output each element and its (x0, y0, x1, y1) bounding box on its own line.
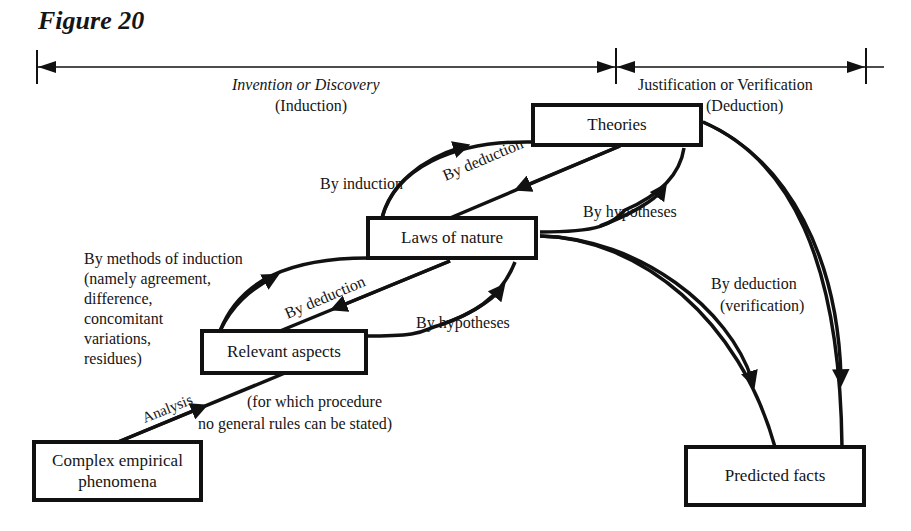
arrow-left-icon (38, 61, 56, 73)
label-methods-of-induction: By methods of induction (namely agreemen… (84, 249, 243, 369)
label-by-hypotheses-upper: By hypotheses (583, 203, 677, 221)
arrow-left-icon (617, 61, 635, 73)
text-line: (namely agreement, (84, 269, 243, 289)
edge-laws-to-predicted (540, 236, 775, 447)
arrow-right-icon (597, 61, 615, 73)
node-laws-of-nature: Laws of nature (366, 216, 538, 260)
phase-invention-title: Invention or Discovery (232, 76, 380, 94)
figure-title: Figure 20 (38, 6, 144, 36)
label-analysis-note-2: no general rules can be stated) (198, 415, 392, 433)
node-complex-phenomena: Complex empirical phenomena (32, 440, 203, 502)
arrow-right-icon (847, 61, 865, 73)
node-theories: Theories (531, 103, 703, 147)
phase-justification-title: Justification or Verification (638, 76, 813, 94)
text-line: difference, (84, 289, 243, 309)
node-label-line1: Complex empirical (52, 450, 183, 471)
text-line: variations, (84, 329, 243, 349)
node-label: Laws of nature (401, 227, 503, 248)
label-analysis-note-1: (for which procedure (247, 393, 382, 411)
label-by-hypotheses-lower: By hypotheses (416, 314, 510, 332)
text-line: residues) (84, 349, 243, 369)
phase-justification-subtitle: (Deduction) (706, 97, 783, 115)
text-line: By methods of induction (84, 249, 243, 269)
node-predicted-facts: Predicted facts (684, 445, 866, 507)
phase-invention-subtitle: (Induction) (275, 97, 347, 115)
node-label: Predicted facts (725, 465, 826, 486)
label-by-deduction-verification-1: By deduction (711, 275, 797, 293)
node-label: Relevant aspects (227, 341, 341, 362)
node-label: Theories (587, 114, 646, 135)
label-by-induction: By induction (320, 175, 403, 193)
node-label-line2: phenomena (78, 471, 156, 492)
label-by-deduction-verification-2: (verification) (720, 297, 804, 315)
text-line: concomitant (84, 309, 243, 329)
